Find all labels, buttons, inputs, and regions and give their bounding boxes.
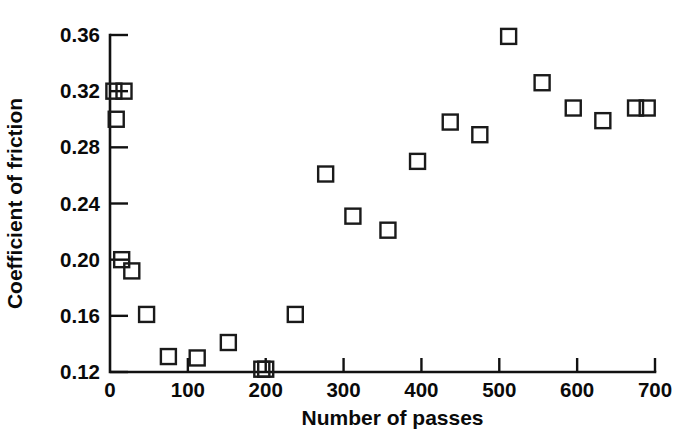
x-tick-label: 600 xyxy=(560,378,594,401)
y-axis-title: Coefficient of friction xyxy=(3,98,26,309)
plot-area: 0.120.160.200.240.280.320.36 01002003004… xyxy=(0,0,673,435)
data-point-marker xyxy=(124,263,139,278)
y-axis-tick-labels: 0.120.160.200.240.280.320.36 xyxy=(60,23,100,383)
x-tick-label: 200 xyxy=(249,378,283,401)
data-point-marker xyxy=(380,223,395,238)
data-point-marker xyxy=(161,349,176,364)
y-tick-label: 0.28 xyxy=(60,135,100,158)
data-point-marker xyxy=(535,75,550,90)
x-axis-title: Number of passes xyxy=(301,406,483,429)
data-point-marker xyxy=(410,154,425,169)
data-point-marker xyxy=(139,307,154,322)
data-point-marker xyxy=(566,101,581,116)
y-tick-label: 0.36 xyxy=(60,23,100,46)
y-tick-label: 0.24 xyxy=(60,192,100,215)
y-tick-label: 0.32 xyxy=(60,79,100,102)
y-tick-label: 0.16 xyxy=(60,304,100,327)
data-point-marker xyxy=(595,113,610,128)
data-point-marker xyxy=(318,167,333,182)
x-tick-label: 400 xyxy=(404,378,438,401)
x-tick-label: 100 xyxy=(171,378,205,401)
x-tick-label: 300 xyxy=(326,378,360,401)
data-point-marker xyxy=(190,350,205,365)
data-point-marker xyxy=(345,209,360,224)
data-point-marker xyxy=(288,307,303,322)
tick-marks xyxy=(110,91,577,372)
scatter-chart-figure: 0.120.160.200.240.280.320.36 01002003004… xyxy=(0,0,673,435)
data-point-marker xyxy=(472,127,487,142)
x-tick-label: 700 xyxy=(638,378,672,401)
y-tick-label: 0.12 xyxy=(60,360,100,383)
data-point-marker xyxy=(221,335,236,350)
axes xyxy=(110,35,655,372)
y-tick-label: 0.20 xyxy=(60,248,100,271)
x-axis-tick-labels: 0100200300400500600700 xyxy=(104,378,672,401)
data-point-marker xyxy=(254,362,269,377)
data-point-marker xyxy=(443,115,458,130)
x-tick-label: 500 xyxy=(482,378,516,401)
axis-spines xyxy=(110,35,655,372)
x-tick-label: 0 xyxy=(104,378,115,401)
data-point-markers xyxy=(106,29,654,377)
data-point-marker xyxy=(501,29,516,44)
